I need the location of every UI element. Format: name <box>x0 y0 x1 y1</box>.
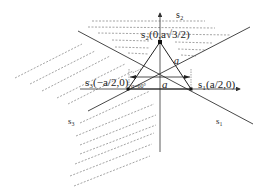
label-alpha-top: a <box>174 56 179 66</box>
label-s2-axis: s₂ <box>176 10 183 20</box>
label-side-a: a <box>162 79 168 90</box>
label-s1-axis: s₁ <box>216 117 223 126</box>
label-s1-point: s₁(a/2,0) <box>198 79 235 90</box>
label-s2-point: s₂(0,a√3/2) <box>141 29 190 40</box>
label-angle: α=60° <box>131 83 146 89</box>
label-s3-axis: s₃ <box>68 117 75 126</box>
lower-left-hatch <box>15 44 156 186</box>
vertex-s2 <box>158 40 162 44</box>
diagram-canvas <box>0 0 263 192</box>
label-s3-point: s₃(−a/2,0) <box>85 77 128 88</box>
vertex-s1 <box>190 88 193 91</box>
